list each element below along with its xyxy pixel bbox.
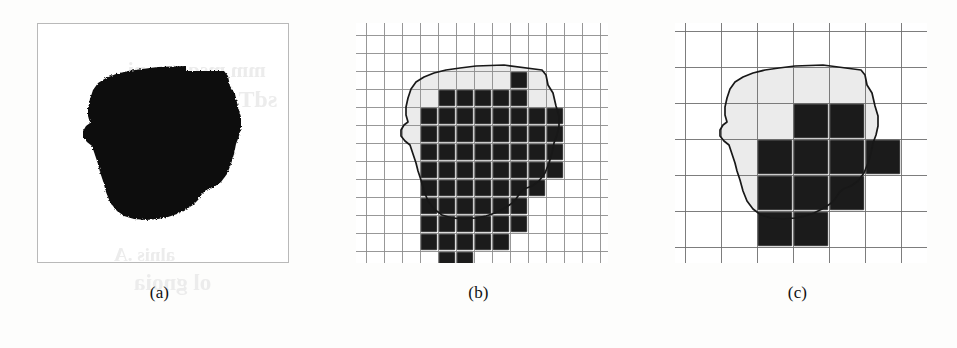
- panel-b-frame: [356, 23, 608, 263]
- grid-overlay-b: [356, 23, 608, 263]
- panel-c-caption: (c): [638, 283, 957, 303]
- figure-container: mm msqotqs ni sdT .ииV qm alnis .A ol gn…: [0, 0, 957, 348]
- panel-b-caption: (b): [319, 283, 638, 303]
- panel-a: mm msqotqs ni sdT .ииV qm alnis .A ol gn…: [0, 0, 319, 348]
- panel-a-frame: mm msqotqs ni sdT .ииV qm alnis .A ol gn…: [37, 23, 289, 263]
- panel-b: (b): [319, 0, 638, 348]
- object-silhouette-a: [38, 24, 290, 264]
- panel-c: noitsmixo (c): [638, 0, 957, 348]
- panel-a-caption: (a): [0, 283, 319, 303]
- grid-overlay-c: [675, 23, 927, 263]
- panel-c-frame: noitsmixo: [675, 23, 927, 263]
